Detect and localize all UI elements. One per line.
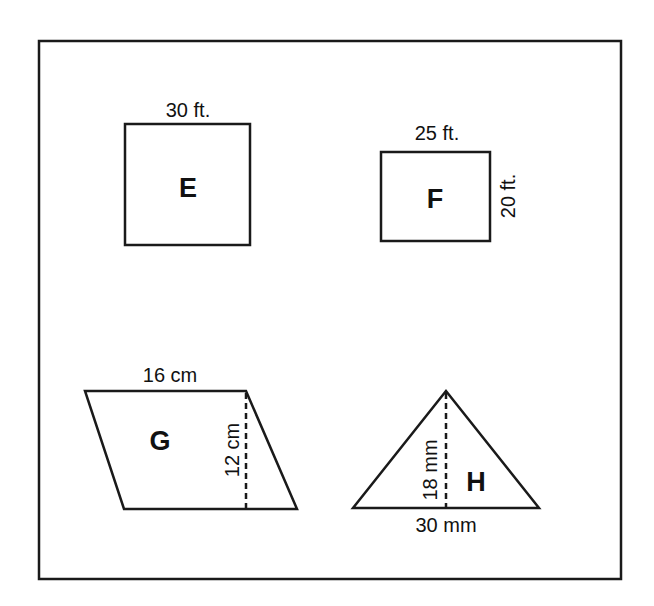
figure-e: 30 ft. E <box>125 99 250 245</box>
figure-f-width-label: 25 ft. <box>415 122 459 144</box>
figure-g-base-label: 16 cm <box>143 364 197 386</box>
figure-g-name: G <box>149 426 170 456</box>
figure-h: H 18 mm 30 mm <box>353 391 539 536</box>
figure-f-height-label: 20 ft. <box>497 174 519 218</box>
parallelogram-g <box>85 391 297 509</box>
figure-g-height-label: 12 cm <box>221 423 243 477</box>
diagram-canvas: 30 ft. E 25 ft. F 20 ft. 16 cm G 12 cm H… <box>0 0 654 606</box>
figure-f: 25 ft. F 20 ft. <box>381 122 519 241</box>
figure-h-name: H <box>466 467 486 497</box>
figure-g: 16 cm G 12 cm <box>85 364 297 509</box>
figure-e-width-label: 30 ft. <box>166 99 210 121</box>
figure-e-name: E <box>179 173 197 203</box>
outer-frame <box>39 41 621 579</box>
figure-f-name: F <box>427 184 444 214</box>
figure-h-height-label: 18 mm <box>419 439 441 500</box>
figure-h-base-label: 30 mm <box>415 514 476 536</box>
